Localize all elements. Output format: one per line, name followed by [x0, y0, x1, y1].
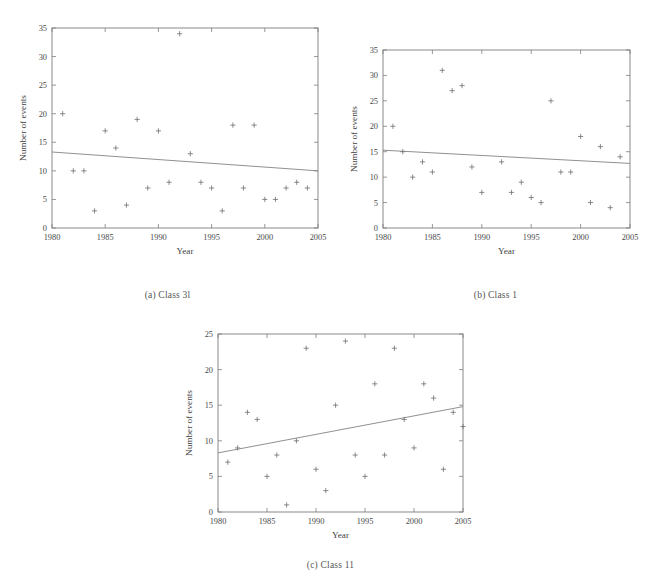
- data-point-marker: [450, 88, 455, 93]
- panel-class-3l: 05101520253035198019851990199520002005Ye…: [0, 10, 335, 265]
- x-tick-label: 2005: [455, 517, 472, 526]
- data-point-marker: [145, 185, 150, 190]
- data-point-marker: [451, 410, 456, 415]
- y-tick-label: 25: [39, 81, 47, 90]
- x-axis-title: Year: [498, 246, 515, 256]
- data-point-marker: [156, 128, 161, 133]
- data-point-marker: [469, 164, 474, 169]
- y-tick-label: 0: [209, 508, 213, 517]
- data-point-marker: [578, 134, 583, 139]
- y-tick-label: 5: [374, 199, 378, 208]
- data-point-marker: [313, 467, 318, 472]
- data-point-marker: [230, 123, 235, 128]
- data-point-marker: [264, 474, 269, 479]
- y-tick-label: 0: [43, 224, 47, 233]
- scatter-plot-a: 05101520253035198019851990199520002005Ye…: [0, 10, 335, 265]
- panel-caption-c: (c) Class 11: [163, 560, 498, 570]
- data-point-marker: [188, 151, 193, 156]
- panel-class-11: 0510152025198019851990199520002005YearNu…: [163, 322, 498, 550]
- y-tick-label: 0: [374, 224, 378, 233]
- scatter-plot-b: 05101520253035198019851990199520002005Ye…: [330, 38, 661, 266]
- data-point-marker: [209, 185, 214, 190]
- figure-root: 05101520253035198019851990199520002005Ye…: [0, 0, 661, 583]
- data-point-marker: [60, 111, 65, 116]
- x-tick-label: 2000: [406, 517, 423, 526]
- data-point-marker: [372, 381, 377, 386]
- data-point-marker: [323, 488, 328, 493]
- data-point-marker: [420, 159, 425, 164]
- data-point-marker: [460, 424, 465, 429]
- data-point-marker: [294, 438, 299, 443]
- data-point-marker: [252, 123, 257, 128]
- data-point-marker: [390, 124, 395, 129]
- y-tick-label: 5: [43, 195, 47, 204]
- x-tick-label: 2005: [622, 233, 639, 242]
- data-point-marker: [479, 190, 484, 195]
- y-tick-label: 25: [205, 330, 213, 339]
- data-point-marker: [568, 169, 573, 174]
- data-point-marker: [103, 128, 108, 133]
- data-point-marker: [548, 98, 553, 103]
- y-axis-title: Number of events: [184, 390, 194, 456]
- x-tick-label: 1980: [44, 233, 61, 242]
- data-point-marker: [135, 117, 140, 122]
- y-tick-label: 10: [205, 437, 213, 446]
- data-point-marker: [241, 185, 246, 190]
- x-axis-title: Year: [177, 246, 194, 256]
- data-point-marker: [225, 460, 230, 465]
- data-point-marker: [459, 83, 464, 88]
- panel-caption-b: (b) Class 1: [330, 290, 661, 300]
- data-point-marker: [608, 205, 613, 210]
- y-tick-label: 5: [209, 472, 213, 481]
- y-tick-label: 10: [370, 173, 378, 182]
- x-axis-title: Year: [332, 530, 349, 540]
- x-tick-label: 1990: [473, 233, 490, 242]
- data-point-marker: [166, 180, 171, 185]
- data-point-marker: [305, 185, 310, 190]
- data-point-marker: [529, 195, 534, 200]
- data-point-marker: [81, 168, 86, 173]
- data-point-marker: [124, 203, 129, 208]
- y-tick-label: 30: [39, 53, 47, 62]
- data-point-marker: [400, 149, 405, 154]
- x-tick-label: 1995: [357, 517, 374, 526]
- x-tick-label: 1990: [150, 233, 167, 242]
- y-tick-label: 35: [370, 46, 378, 55]
- data-point-marker: [410, 175, 415, 180]
- data-point-marker: [283, 185, 288, 190]
- data-point-marker: [441, 467, 446, 472]
- x-tick-label: 2005: [310, 233, 327, 242]
- trend-line: [383, 150, 630, 163]
- data-point-marker: [411, 445, 416, 450]
- data-point-marker: [177, 31, 182, 36]
- y-tick-label: 20: [370, 122, 378, 131]
- data-point-marker: [519, 180, 524, 185]
- data-point-marker: [220, 208, 225, 213]
- data-point-marker: [92, 208, 97, 213]
- panel-caption-a: (a) Class 3l: [0, 290, 335, 300]
- y-axis-title: Number of events: [18, 95, 28, 161]
- x-tick-label: 1980: [210, 517, 227, 526]
- data-point-marker: [262, 197, 267, 202]
- data-point-marker: [255, 417, 260, 422]
- x-tick-label: 1990: [308, 517, 325, 526]
- data-point-marker: [333, 403, 338, 408]
- data-point-marker: [284, 502, 289, 507]
- data-point-marker: [273, 197, 278, 202]
- data-point-marker: [304, 346, 309, 351]
- x-tick-label: 1985: [97, 233, 114, 242]
- y-tick-label: 20: [39, 110, 47, 119]
- x-tick-label: 1980: [375, 233, 392, 242]
- data-point-marker: [421, 381, 426, 386]
- data-point-marker: [343, 339, 348, 344]
- y-tick-label: 15: [39, 138, 47, 147]
- data-point-marker: [431, 395, 436, 400]
- data-point-marker: [440, 68, 445, 73]
- x-tick-label: 1985: [424, 233, 441, 242]
- data-point-marker: [353, 452, 358, 457]
- data-point-marker: [558, 169, 563, 174]
- data-point-marker: [430, 169, 435, 174]
- x-tick-label: 1995: [203, 233, 220, 242]
- y-tick-label: 25: [370, 97, 378, 106]
- data-point-marker: [392, 346, 397, 351]
